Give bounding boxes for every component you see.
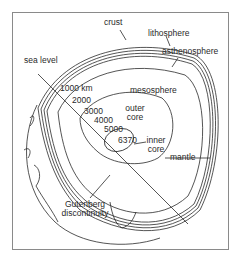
label-crust: crust [104, 18, 122, 27]
label-gutenberg-discontinuity: Gutenberg discontinuity [58, 200, 112, 218]
label-mantle: mantle [170, 153, 196, 162]
label-asthenosphere: asthenosphere [162, 47, 218, 56]
label-mesosphere: mesosphere [130, 86, 177, 95]
label-sea-level: sea level [24, 56, 58, 65]
depth-label-1000: 1000 km [60, 84, 93, 93]
label-outer-core: outer core [120, 104, 150, 122]
label-inner-core: inner core [143, 136, 169, 154]
depth-label-6370: 6370 [118, 136, 137, 145]
depth-label-2000: 2000 [72, 96, 91, 105]
depth-label-5000: 5000 [104, 125, 123, 134]
label-lithosphere: lithosphere [148, 29, 190, 38]
